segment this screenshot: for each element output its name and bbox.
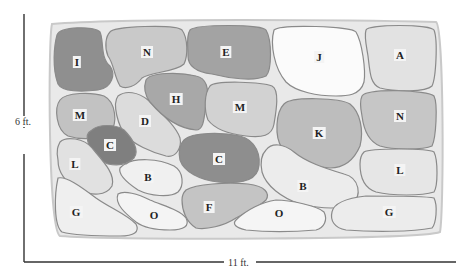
bed-J-label: J <box>314 51 324 63</box>
bed-K-label: K <box>313 127 326 139</box>
garden-plan-canvas <box>0 0 463 274</box>
bed-F-label: F <box>204 201 215 213</box>
bed-M1-label: M <box>73 109 87 121</box>
bed-A-label: A <box>394 49 406 61</box>
bed-M2-label: M <box>233 101 247 113</box>
bed-L2-label: L <box>394 164 405 176</box>
height-label: 6 ft. <box>14 116 32 127</box>
bed-O2-label: O <box>273 207 286 219</box>
bed-O1-label: O <box>148 209 161 221</box>
bed-B2-label: B <box>297 180 308 192</box>
bed-I-label: I <box>73 56 81 68</box>
bed-N2-label: N <box>394 110 406 122</box>
width-label: 11 ft. <box>227 257 250 268</box>
bed-G1-label: G <box>70 206 83 218</box>
bed-C1-label: C <box>104 139 116 151</box>
bed-N1-label: N <box>141 46 153 58</box>
bed-G2-label: G <box>383 206 396 218</box>
bed-D-label: D <box>139 115 151 127</box>
bed-E-label: E <box>220 46 231 58</box>
bed-C2-label: C <box>213 153 225 165</box>
bed-B1-label: B <box>142 171 153 183</box>
garden-plan-diagram: 6 ft. 11 ft. INEJAMDHMKNCCLBBLGOFOG <box>0 0 463 274</box>
bed-L1-label: L <box>69 158 80 170</box>
bed-H-label: H <box>170 93 183 105</box>
